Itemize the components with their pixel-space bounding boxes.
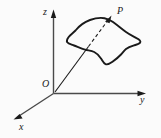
origin-ray-dashed-segment bbox=[89, 20, 109, 47]
y-axis-label: y bbox=[140, 95, 144, 105]
z-axis-arrowhead bbox=[51, 10, 56, 19]
x-axis bbox=[14, 94, 54, 120]
origin-ray-solid-segment bbox=[55, 47, 89, 93]
z-axis bbox=[51, 10, 56, 94]
z-axis-label: z bbox=[43, 7, 47, 17]
x-axis-label: x bbox=[19, 122, 23, 132]
y-axis bbox=[54, 91, 147, 96]
x-axis-line bbox=[19, 94, 54, 117]
point-p-label: P bbox=[117, 6, 123, 16]
diagram-canvas bbox=[0, 0, 161, 138]
origin-label: O bbox=[42, 79, 49, 89]
surface-patch-outline bbox=[67, 18, 141, 64]
figure-container: z y x O P bbox=[0, 0, 161, 138]
